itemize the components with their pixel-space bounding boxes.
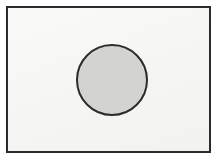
figure-canvas xyxy=(0,0,219,162)
shaded-circle-shape xyxy=(76,44,148,116)
rectangle-frame xyxy=(6,6,211,153)
